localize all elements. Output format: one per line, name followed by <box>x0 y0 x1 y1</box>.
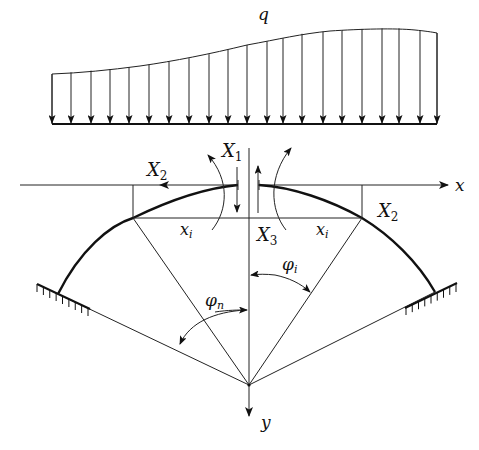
phi-i-arc-head-left <box>251 274 275 275</box>
x3-left-moment-arrow <box>208 155 224 230</box>
phi-i-label: φi <box>282 254 297 276</box>
arch <box>58 180 435 294</box>
xi-left-label: xi <box>180 220 193 241</box>
x3-label: X3 <box>255 224 277 248</box>
x-axis: x <box>20 175 465 195</box>
load-envelope-curve <box>52 29 437 74</box>
right-fixed-support <box>405 283 457 315</box>
load-arrows <box>52 28 437 123</box>
angle-phi-n: φn <box>180 290 247 344</box>
left-fixed-support <box>37 284 90 316</box>
x1-label: X1 <box>220 140 242 164</box>
x-axis-label: x <box>455 175 465 195</box>
left-support-hatch <box>37 284 88 316</box>
load-label-q: q <box>258 4 269 24</box>
left-radius-i <box>133 218 249 385</box>
x2-left-label: X2 <box>145 159 167 183</box>
distributed-load: q <box>52 4 437 124</box>
y-axis: y <box>249 148 271 432</box>
angle-phi-i: φi <box>251 254 310 292</box>
phi-i-arc <box>275 275 310 292</box>
phi-n-label: φn <box>205 290 224 312</box>
xi-right-label: xi <box>316 220 329 241</box>
y-axis-label: y <box>260 412 271 432</box>
x2-right-label: X2 <box>376 200 398 224</box>
phi-n-arc <box>180 310 245 344</box>
arch-diagram: q x y <box>0 0 479 450</box>
arch-right-half <box>259 185 435 292</box>
arch-center-point <box>247 383 250 386</box>
right-support-hatch <box>406 284 456 315</box>
